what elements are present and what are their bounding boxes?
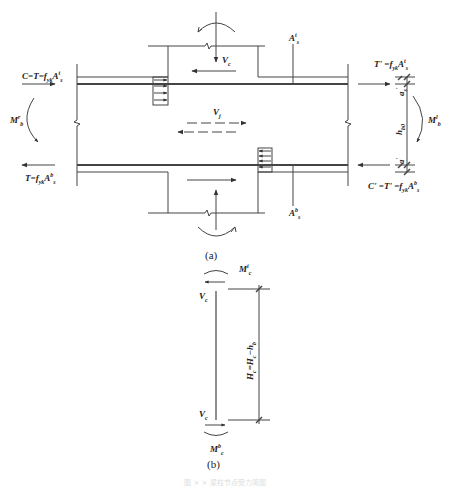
- part-b-caption: (b): [207, 458, 220, 470]
- left-moment-arc: [27, 98, 38, 142]
- lower-column: [148, 172, 265, 216]
- figure-caption: 图 × × 梁柱节点受力简图: [150, 477, 300, 485]
- upper-column: [148, 43, 265, 77]
- left-stress-block: [153, 77, 168, 105]
- cover-top-label: as': [395, 87, 408, 96]
- part-a-caption: (a): [205, 249, 217, 261]
- effective-depth-label: hb0: [395, 124, 406, 135]
- top-right-force-label: T' =fykAts: [374, 58, 408, 71]
- bottom-left-force-label: T=fykAbs: [25, 172, 56, 185]
- joint-force-diagram: [0, 0, 450, 489]
- right-moment-arc: [413, 96, 423, 142]
- column-height-label: Hc=Hc−hb: [246, 342, 257, 380]
- bottom-moment-arc-b: [204, 432, 228, 436]
- column-shear-label: Vc: [222, 56, 231, 67]
- bottom-right-force-label: C' =T' =fykAbs: [368, 180, 419, 193]
- top-rebar-label: Ats: [289, 32, 299, 45]
- right-moment-label: Mlb: [428, 114, 441, 127]
- bottom-rebar-label: Abs: [289, 207, 300, 220]
- bottom-shear-label-b: Vc: [199, 410, 208, 421]
- bottom-moment-label-b: Mbc: [210, 443, 224, 456]
- left-section-line: [74, 64, 80, 186]
- top-beam: [77, 77, 348, 84]
- top-left-force-label: C=T=fykAts: [22, 70, 62, 83]
- top-moment-label-b: Mtc: [239, 263, 251, 276]
- right-stress-block: [258, 148, 272, 172]
- left-moment-label: Mrb: [10, 114, 23, 127]
- top-moment-arc-b: [204, 271, 228, 275]
- top-shear-label-b: Vc: [199, 292, 208, 303]
- cover-bottom-label: a': [395, 158, 406, 164]
- right-section-line: [345, 64, 351, 186]
- bottom-beam: [77, 165, 348, 172]
- joint-shear-label: Vj: [213, 108, 221, 119]
